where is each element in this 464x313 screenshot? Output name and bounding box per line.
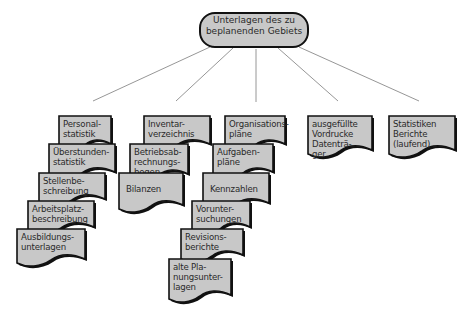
document-label: Organisations- pläne: [229, 119, 289, 139]
document-label: ausgefüllte Vordrucke Datenträ- ger: [312, 119, 358, 159]
document-label: Aufgaben- pläne: [217, 147, 260, 167]
document-label: Kennzahlen: [210, 184, 258, 194]
document-label: Stellenbe- schreibung: [43, 176, 88, 196]
diagram-canvas: Unterlagen des zu beplanenden Gebiets Pe…: [0, 0, 464, 313]
document-label: Revisions- berichte: [185, 232, 227, 252]
document-node: ausgefüllte Vordrucke Datenträ- ger: [307, 115, 377, 163]
document-label: Bilanzen: [126, 184, 161, 194]
root-label-line2: beplanenden Gebiets: [200, 26, 308, 37]
document-label: Ausbildungs- unterlagen: [21, 232, 74, 252]
document-label: alte Pla- nungsunter- lagen: [173, 262, 223, 292]
document-label: Überstunden- statistik: [53, 147, 109, 167]
document-label: Inventar- verzeichnis: [148, 119, 194, 139]
document-label: Vorunter- suchungen: [196, 204, 241, 224]
document-node: Bilanzen: [118, 172, 188, 218]
root-node: Unterlagen des zu beplanenden Gebiets: [200, 15, 308, 37]
document-label: Statistiken Berichte (laufend): [393, 119, 436, 149]
document-icon: [118, 172, 188, 218]
document-label: Arbeitsplatz- beschreibung: [32, 204, 88, 224]
document-node: Ausbildungs- unterlagen: [16, 228, 90, 272]
root-label-line1: Unterlagen des zu: [200, 15, 308, 26]
document-node: alte Pla- nungsunter- lagen: [168, 258, 236, 308]
document-label: Personal- statistik: [63, 119, 101, 139]
document-node: Statistiken Berichte (laufend): [388, 115, 460, 163]
